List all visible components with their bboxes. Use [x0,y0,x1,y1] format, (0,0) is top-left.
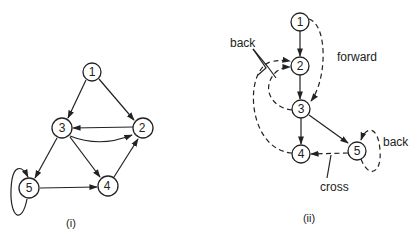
node-i-1: 1 [83,63,101,81]
label-back-left: back [230,36,256,50]
svg-text:2: 2 [297,59,304,73]
node-i-4: 4 [98,176,118,196]
node-ii-5: 5 [348,142,366,160]
label-cross: cross [320,180,349,194]
svg-text:1: 1 [297,15,304,29]
svg-text:1: 1 [89,65,96,79]
node-i-5: 5 [19,178,39,198]
label-back-right: back [383,135,409,149]
svg-text:3: 3 [59,121,66,135]
edge-i-1-2 [99,79,134,120]
svg-text:4: 4 [104,179,111,193]
edge-i-3-2 [70,135,132,142]
cross-callout-line [327,155,331,178]
node-ii-4: 4 [292,145,310,163]
caption-i: (i) [66,217,76,229]
node-i-3: 3 [52,118,72,138]
diagram-canvas: 1 2 3 4 5 (i) 1 2 3 4 5 back forward bac… [0,0,417,237]
label-forward: forward [337,50,377,64]
edge-i-5-4 [40,187,97,188]
svg-text:3: 3 [298,102,305,116]
edge-i-3-4 [70,137,100,177]
graph-ii: 1 2 3 4 5 back forward back cross (ii) [230,13,409,224]
cross-edge-ii-5-4 [311,153,348,154]
node-i-2: 2 [133,118,153,138]
svg-text:5: 5 [354,144,361,158]
node-ii-3: 3 [292,100,310,118]
svg-text:2: 2 [139,121,146,135]
caption-ii: (ii) [303,212,315,224]
edge-i-4-2 [114,139,138,177]
tree-edge-ii-3-5 [309,115,348,143]
node-ii-1: 1 [291,13,309,31]
node-ii-2: 2 [291,57,309,75]
svg-text:5: 5 [26,181,33,195]
graph-i: 1 2 3 4 5 (i) [11,63,153,229]
edge-i-3-5 [35,138,57,178]
edge-i-2-3 [73,127,133,128]
svg-text:4: 4 [298,147,305,161]
forward-edge-ii-1-3 [309,19,323,101]
edge-i-1-3 [68,80,86,118]
